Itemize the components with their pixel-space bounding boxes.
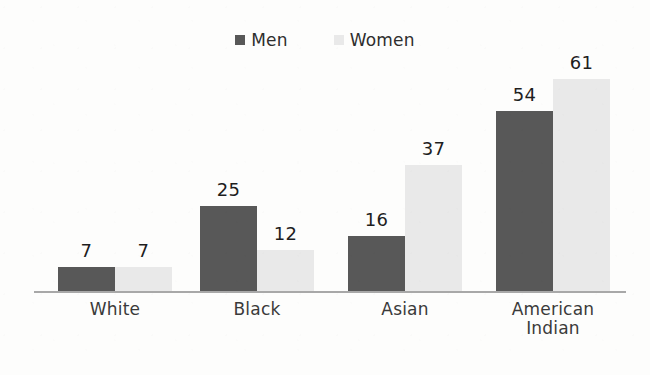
bar-value-asian-women: 37 [422, 140, 446, 158]
x-tick-label-american-line2: Indian [483, 319, 623, 338]
bar-american-indian-women[interactable]: 61 [553, 51, 610, 291]
bar-rect-american-indian-men[interactable] [496, 111, 553, 291]
bar-white-women[interactable]: 7 [115, 51, 172, 291]
bar-rect-asian-men[interactable] [348, 236, 405, 291]
bar-american-indian-men[interactable]: 54 [496, 51, 553, 291]
bar-group-black: 25 12 [200, 51, 314, 291]
bar-rect-american-indian-women[interactable] [553, 79, 610, 291]
x-tick-label-asian: Asian [335, 300, 475, 319]
bar-rect-white-women[interactable] [115, 267, 172, 291]
bar-black-women[interactable]: 12 [257, 51, 314, 291]
bar-rect-black-men[interactable] [200, 206, 257, 291]
bar-value-white-women: 7 [138, 242, 150, 260]
x-tick-label-black: Black [187, 300, 327, 319]
bar-group-asian: 16 37 [348, 51, 462, 291]
bar-asian-men[interactable]: 16 [348, 51, 405, 291]
bar-value-american-indian-men: 54 [513, 86, 537, 104]
x-tick-label-white: White [45, 300, 185, 319]
x-tick-label-american-line1: American [483, 300, 623, 319]
bar-value-black-women: 12 [274, 225, 298, 243]
bar-group-american-indian: 54 61 [496, 51, 610, 291]
x-tick-label-american-indian: American Indian [483, 300, 623, 338]
bar-rect-white-men[interactable] [58, 267, 115, 291]
bar-chart: Men Women 7 7 25 12 [0, 0, 650, 375]
x-axis-line [34, 291, 626, 293]
bar-rect-asian-women[interactable] [405, 165, 462, 291]
bar-black-men[interactable]: 25 [200, 51, 257, 291]
plot-area: 7 7 25 12 16 [0, 0, 650, 375]
bar-value-white-men: 7 [81, 242, 93, 260]
bar-value-black-men: 25 [217, 181, 241, 199]
bar-group-white: 7 7 [58, 51, 172, 291]
bar-asian-women[interactable]: 37 [405, 51, 462, 291]
bar-value-american-indian-women: 61 [570, 54, 594, 72]
bar-value-asian-men: 16 [365, 211, 389, 229]
bar-white-men[interactable]: 7 [58, 51, 115, 291]
bar-rect-black-women[interactable] [257, 250, 314, 291]
